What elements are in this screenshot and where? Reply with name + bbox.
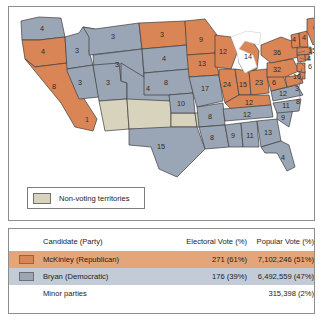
cell-popular-republican: 7,102,246 (51%) [247, 251, 314, 268]
label-la: 8 [210, 133, 214, 142]
label-ny: 36 [273, 48, 281, 57]
label-id: 3 [75, 46, 79, 55]
cell-popular-minor: 315,398 (2%) [247, 285, 314, 302]
label-md: 8 [296, 97, 300, 106]
swatch-democratic [19, 272, 34, 281]
label-mo: 17 [201, 84, 209, 93]
label-nh: 4 [302, 33, 306, 42]
label-ms: 9 [231, 131, 235, 140]
label-wy: 3 [115, 60, 119, 69]
label-co: 4 [146, 84, 150, 93]
state-fl [261, 141, 295, 171]
header-candidate: Candidate (Party) [43, 229, 169, 251]
label-de: 3 [295, 84, 299, 93]
table-row-minor-parties: Minor parties 315,398 (2%) [9, 285, 314, 302]
row-swatch-minor [9, 285, 43, 302]
label-ky: 12 [245, 98, 253, 107]
territory-arizona [99, 99, 129, 131]
label-mi: 14 [244, 52, 252, 61]
label-ct: 6 [308, 62, 312, 71]
label-pa: 32 [273, 65, 281, 74]
label-in: 15 [239, 80, 247, 89]
table-row-democratic: Bryan (Democratic) 176 (39%) 6,492,559 (… [9, 268, 314, 285]
label-mt: 3 [111, 32, 115, 41]
cell-candidate-democratic: Bryan (Democratic) [43, 268, 169, 285]
swatch-republican [19, 255, 34, 264]
label-ar: 8 [208, 112, 212, 121]
table-header-row: Candidate (Party) Electoral Vote (%) Pop… [9, 229, 314, 251]
map-legend: Non-voting territories [27, 187, 145, 209]
label-il: 24 [223, 80, 231, 89]
label-sd: 4 [162, 54, 166, 63]
label-tx: 15 [157, 142, 165, 151]
label-tn: 12 [243, 110, 251, 119]
state-ne [144, 69, 193, 95]
legend-label-nonvoting: Non-voting territories [59, 194, 129, 203]
map-panel: 4 4 8 1 3 3 3 3 3 4 3 4 8 10 9 13 17 8 8… [8, 6, 315, 221]
label-mn: 9 [199, 35, 203, 44]
label-ia: 13 [198, 59, 206, 68]
row-swatch-democratic [9, 268, 43, 285]
territory-new-mexico [127, 99, 171, 131]
election-map-figure: 4 4 8 1 3 3 3 3 3 4 3 4 8 10 9 13 17 8 8… [0, 0, 323, 321]
label-oh: 23 [255, 78, 263, 87]
header-swatch-spacer [9, 229, 43, 251]
label-or: 4 [41, 47, 45, 56]
label-ga: 13 [264, 128, 272, 137]
label-wv: 6 [272, 78, 276, 87]
label-ne: 8 [164, 78, 168, 87]
label-ut: 3 [106, 78, 110, 87]
label-ks: 10 [177, 99, 185, 108]
cell-candidate-republican: McKinley (Republican) [43, 251, 169, 268]
results-table: Candidate (Party) Electoral Vote (%) Pop… [9, 229, 314, 302]
label-ca: 8 [52, 82, 56, 91]
label-ca-2: 1 [85, 116, 89, 123]
label-me: 6 [313, 23, 314, 32]
label-fl: 4 [281, 153, 285, 162]
label-nv: 3 [78, 78, 82, 87]
label-va: 12 [279, 89, 287, 98]
row-swatch-republican [9, 251, 43, 268]
label-nd: 3 [160, 30, 164, 39]
state-tx [129, 127, 205, 177]
label-nc: 11 [282, 101, 289, 110]
cell-electoral-republican: 271 (61%) [169, 251, 247, 268]
cell-electoral-minor [169, 285, 247, 302]
territory-oklahoma [171, 113, 197, 127]
header-popular: Popular Vote (%) [247, 229, 314, 251]
header-electoral: Electoral Vote (%) [169, 229, 247, 251]
legend-swatch-nonvoting [33, 193, 51, 204]
label-wi: 12 [219, 47, 227, 56]
label-vt: 4 [292, 35, 296, 44]
cell-electoral-democratic: 176 (39%) [169, 268, 247, 285]
label-nj: 10 [293, 72, 301, 81]
label-sc: 9 [281, 113, 285, 122]
results-table-panel: Candidate (Party) Electoral Vote (%) Pop… [8, 228, 315, 314]
label-wa: 4 [40, 24, 44, 33]
label-al: 11 [246, 131, 253, 140]
cell-popular-democratic: 6,492,559 (47%) [247, 268, 314, 285]
table-row-republican: McKinley (Republican) 271 (61%) 7,102,24… [9, 251, 314, 268]
cell-candidate-minor: Minor parties [43, 285, 169, 302]
